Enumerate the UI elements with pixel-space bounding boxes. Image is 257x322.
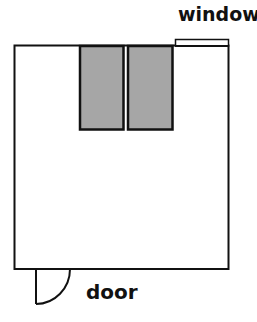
door-label: door (86, 282, 138, 302)
furniture-left (80, 46, 124, 130)
door-swing-arc (36, 269, 70, 304)
furniture-right (128, 46, 173, 130)
floor-plan (0, 0, 257, 322)
window-label: window (178, 5, 257, 24)
